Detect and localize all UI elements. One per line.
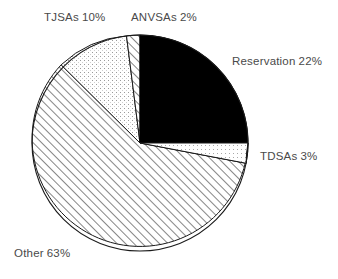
slice-label-reservation-pct: 22% [299, 55, 323, 67]
slice-label-anvsas: ANVSAs2% [131, 12, 197, 24]
slice-label-tjsas-pct: 10% [82, 11, 106, 23]
slice-label-other: Other63% [14, 248, 70, 260]
slice-label-tjsas: TJSAs10% [44, 12, 106, 24]
slice-label-anvsas-pct: 2% [180, 11, 197, 23]
slice-label-reservation-name: Reservation [232, 55, 296, 67]
pie-chart: TJSAs10% ANVSAs2% Reservation22% TDSAs3%… [0, 0, 338, 279]
slice-label-tdsas-pct: 3% [300, 150, 317, 162]
slice-label-other-name: Other [14, 247, 44, 259]
slice-label-other-pct: 63% [47, 247, 71, 259]
slice-label-reservation: Reservation22% [232, 56, 322, 68]
pie-chart-canvas [0, 0, 338, 279]
slice-label-tdsas-name: TDSAs [260, 150, 297, 162]
slice-label-anvsas-name: ANVSAs [131, 11, 177, 23]
slice-label-tdsas: TDSAs3% [260, 151, 317, 163]
slice-label-tjsas-name: TJSAs [44, 11, 79, 23]
